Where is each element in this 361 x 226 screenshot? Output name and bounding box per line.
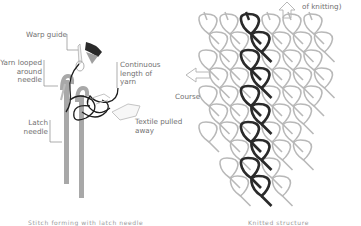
right-caption: Knitted structure <box>248 219 309 226</box>
left-caption: Stitch forming with latch needle <box>28 219 143 226</box>
label-warp-guide: Warp guide <box>26 31 67 40</box>
label-latch-needle: Latch needle <box>16 119 48 136</box>
label-course: Course <box>175 93 200 102</box>
label-yarn-looped: Yarn looped around needle <box>0 59 42 85</box>
label-textile-pulled: Textile pulled away <box>135 118 182 135</box>
label-wale-partial: of knitting) <box>302 3 341 12</box>
label-continuous-length: Continuous length of yarn <box>120 61 161 87</box>
